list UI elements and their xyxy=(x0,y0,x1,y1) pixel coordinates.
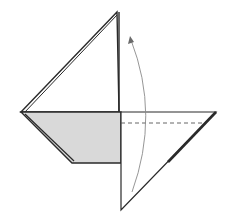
upper-flap xyxy=(21,12,119,112)
shaded-flap xyxy=(21,112,121,163)
origami-diagram xyxy=(0,0,236,223)
arrowhead-icon xyxy=(128,36,134,44)
diagram-canvas xyxy=(0,0,236,223)
